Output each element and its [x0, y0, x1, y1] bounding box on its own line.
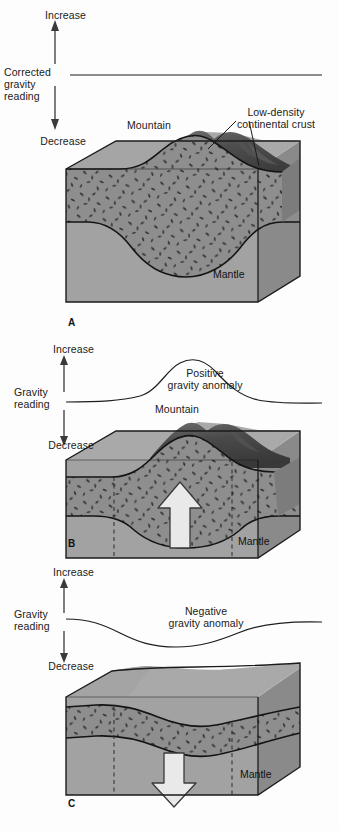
mantle-label-c: Mantle	[240, 768, 272, 780]
mantle-label-a: Mantle	[213, 268, 245, 280]
mountain-label-a: Mountain	[114, 120, 184, 132]
low-density-crust-label-a: Low-density continental crust	[213, 106, 339, 130]
panel-c-graphic	[0, 555, 339, 831]
negative-anomaly-label: Negative gravity anomaly	[142, 605, 270, 629]
axis-increase-label-c: Increase	[14, 567, 94, 579]
panel-a-graphic	[0, 0, 339, 340]
isostasy-gravity-figure: Increase Corrected gravity reading Decre…	[0, 0, 339, 831]
axis-increase-label-b: Increase	[14, 344, 94, 356]
block-diagram-a	[66, 131, 300, 302]
mantle-label-b: Mantle	[238, 535, 270, 547]
axis-decrease-label-c: Decrease	[14, 661, 94, 673]
axis-baseline-line1-a: Corrected	[4, 66, 51, 78]
low-density-crust-line1: Low-density	[247, 106, 304, 118]
mountain-label-b: Mountain	[142, 404, 212, 416]
negative-anomaly-line2: gravity anomaly	[168, 617, 243, 629]
axis-decrease-label-a: Decrease	[8, 136, 86, 148]
negative-anomaly-line1: Negative	[185, 605, 227, 617]
positive-anomaly-line1: Positive	[186, 367, 224, 379]
panel-c: Increase Gravity reading Decrease Negati…	[0, 555, 339, 831]
axis-baseline-line1-c: Gravity	[14, 608, 48, 620]
panel-a: Increase Corrected gravity reading Decre…	[0, 0, 339, 340]
panel-letter-a: A	[68, 317, 75, 328]
positive-anomaly-line2: gravity anomaly	[167, 379, 242, 391]
low-density-crust-line2: continental crust	[237, 118, 315, 130]
axis-baseline-line1-b: Gravity	[14, 386, 48, 398]
block-diagram-c	[66, 663, 300, 807]
panel-b: Increase Gravity reading Decrease Positi…	[0, 330, 339, 560]
positive-anomaly-label: Positive gravity anomaly	[140, 367, 270, 391]
panel-letter-c: C	[68, 798, 75, 809]
axis-increase-label-a: Increase	[10, 10, 86, 22]
axis-baseline-label-c: Gravity reading	[14, 608, 70, 632]
axis-baseline-label-a: Corrected gravity reading	[4, 66, 64, 102]
axis-baseline-label-b: Gravity reading	[14, 386, 70, 410]
axis-baseline-line2-b: reading	[14, 398, 50, 410]
axis-decrease-label-b: Decrease	[14, 440, 94, 452]
axis-baseline-line2-c: reading	[14, 620, 50, 632]
panel-letter-b: B	[68, 538, 75, 549]
axis-baseline-line2-a: gravity	[4, 78, 36, 90]
axis-baseline-line3-a: reading	[4, 90, 40, 102]
